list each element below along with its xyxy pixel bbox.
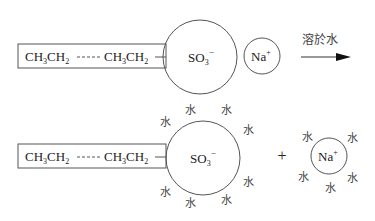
arrow-head-icon	[336, 53, 351, 61]
water-label: 水	[325, 182, 336, 195]
alkyl-chain-text: CH3CH2	[25, 49, 69, 66]
water-label: 水	[302, 131, 313, 144]
water-label: 水	[298, 171, 309, 184]
hydrated-sodium-ion: Na+ 水 水 水 水 水	[298, 131, 358, 195]
bottom-molecule: CH3CH2 CH3CH2 SO3− 水 水 水 水 水 水 水 水	[18, 104, 254, 210]
water-label: 水	[347, 172, 358, 185]
sulfonate-label: SO3−	[188, 47, 214, 67]
top-molecule: CH3CH2 CH3CH2 SO3− Na+	[18, 20, 280, 94]
water-label: 水	[160, 186, 171, 199]
water-label: 水	[221, 104, 232, 117]
sodium-label-bottom: Na+	[318, 148, 338, 164]
alkyl-chain-text-bottom: CH3CH2	[25, 149, 69, 166]
alkyl-chain-text-2: CH3CH2	[104, 49, 148, 66]
water-label: 水	[243, 124, 254, 137]
arrow-label: 溶於水	[302, 32, 338, 47]
plus-sign: +	[277, 147, 286, 164]
sulfonate-label-bottom: SO3−	[190, 148, 216, 168]
water-label: 水	[160, 116, 171, 129]
alkyl-chain-text-bottom-2: CH3CH2	[104, 149, 148, 166]
diagram-canvas: CH3CH2 CH3CH2 SO3− Na+ 溶於水 CH3CH2 CH3CH2	[0, 0, 375, 221]
water-label: 水	[185, 104, 196, 117]
water-label: 水	[347, 132, 358, 145]
water-label: 水	[185, 197, 196, 210]
sodium-label: Na+	[251, 48, 271, 64]
water-label: 水	[243, 176, 254, 189]
water-label: 水	[221, 194, 232, 207]
dissolve-arrow: 溶於水	[301, 32, 351, 61]
